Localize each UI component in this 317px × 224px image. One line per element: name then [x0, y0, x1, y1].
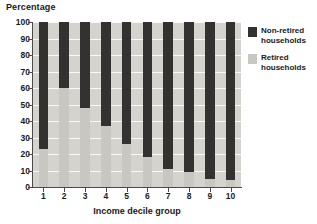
x-axis-tick-mark [189, 188, 190, 192]
x-axis-tick-mark [231, 188, 232, 192]
bar-segment-retired [122, 144, 132, 187]
bar-segment-retired [39, 149, 49, 187]
bar-segment-non-retired [226, 22, 236, 180]
chart-legend: Non-retiredhouseholds Retiredhouseholds [248, 26, 316, 80]
x-axis-title: Income decile group [33, 206, 241, 216]
x-axis-tick-mark [210, 188, 211, 192]
bar-column [226, 22, 236, 187]
bar-segment-retired [184, 172, 194, 187]
bar-segment-retired [80, 108, 90, 187]
bar-column [39, 22, 49, 187]
y-axis-tick-labels: 0102030405060708090100 [0, 0, 30, 224]
bar-segment-non-retired [80, 22, 90, 108]
stacked-bar-chart: Percentage 0102030405060708090100 123456… [0, 0, 317, 224]
plot-area [33, 22, 241, 187]
bar-segment-retired [143, 157, 153, 187]
bar-segment-retired [59, 88, 69, 187]
bar-column [122, 22, 132, 187]
legend-label-retired: Retiredhouseholds [261, 53, 316, 73]
legend-item-non-retired: Non-retiredhouseholds [248, 26, 316, 46]
bar-series-group [33, 22, 241, 187]
bar-column [80, 22, 90, 187]
bar-segment-non-retired [163, 22, 173, 169]
bar-column [184, 22, 194, 187]
legend-label-retired-line1: Retired [261, 53, 289, 62]
x-axis-tick-mark [168, 188, 169, 192]
legend-label-non-retired-line1: Non-retired [261, 26, 304, 35]
legend-label-retired-line2: households [261, 63, 306, 72]
bar-segment-retired [163, 169, 173, 187]
bar-segment-non-retired [122, 22, 132, 144]
legend-swatch-icon-non-retired [248, 27, 257, 37]
bar-segment-non-retired [143, 22, 153, 157]
x-axis-tick-mark [43, 188, 44, 192]
legend-label-non-retired-line2: households [261, 36, 306, 45]
x-axis-tick-mark [85, 188, 86, 192]
bar-column [205, 22, 215, 187]
legend-item-retired: Retiredhouseholds [248, 53, 316, 73]
x-axis-tick-mark [106, 188, 107, 192]
bar-segment-non-retired [205, 22, 215, 179]
bar-column [143, 22, 153, 187]
x-axis-tick-mark [147, 188, 148, 192]
bar-segment-retired [101, 126, 111, 187]
bar-segment-non-retired [101, 22, 111, 126]
bar-segment-retired [226, 180, 236, 187]
legend-label-non-retired: Non-retiredhouseholds [261, 26, 316, 46]
x-axis-tick-mark [64, 188, 65, 192]
bar-segment-non-retired [184, 22, 194, 172]
bar-segment-retired [205, 179, 215, 187]
legend-swatch-icon-retired [248, 54, 257, 64]
x-axis-tick-mark [127, 188, 128, 192]
bar-segment-non-retired [39, 22, 49, 149]
bar-column [163, 22, 173, 187]
bar-column [59, 22, 69, 187]
x-axis-tick-label: 10 [216, 192, 246, 201]
bar-column [101, 22, 111, 187]
bar-segment-non-retired [59, 22, 69, 88]
